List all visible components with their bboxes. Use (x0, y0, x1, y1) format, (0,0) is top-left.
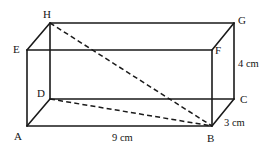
dashed-line-group (50, 23, 212, 126)
length-label: 9 cm (112, 132, 133, 143)
diagonal-H-B (50, 23, 212, 126)
edge-D-A (27, 99, 50, 126)
vertex-label-f: F (215, 44, 221, 56)
edge-E-H (27, 23, 50, 50)
vertex-label-h: H (43, 8, 51, 20)
cuboid-figure: ABCDEFGH 9 cm4 cm3 cm (0, 0, 276, 150)
height-label: 4 cm (238, 58, 259, 69)
diagonal-D-B (50, 99, 212, 126)
vertex-label-c: C (240, 93, 247, 105)
solid-edge-group (27, 23, 234, 126)
dimension-label-group: 9 cm4 cm3 cm (112, 58, 259, 143)
vertex-label-a: A (14, 130, 22, 142)
vertex-label-b: B (207, 132, 214, 144)
vertex-label-d: D (37, 87, 45, 99)
vertex-label-g: G (238, 14, 246, 26)
cuboid-drawing-canvas: ABCDEFGH 9 cm4 cm3 cm (0, 0, 276, 150)
depth-label: 3 cm (224, 117, 245, 128)
vertex-label-e: E (13, 43, 20, 55)
